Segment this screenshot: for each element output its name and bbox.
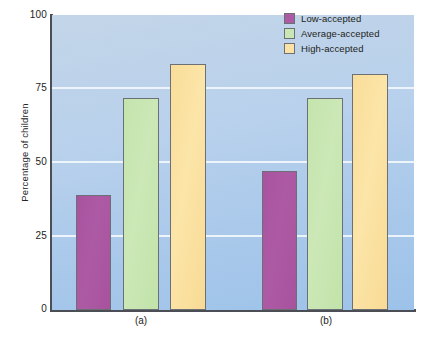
plot-area xyxy=(52,15,414,310)
y-tick-label-25: 25 xyxy=(19,230,47,241)
bar-b-average-accepted xyxy=(307,98,343,310)
legend-item-average-accepted: Average-accepted xyxy=(284,26,380,40)
legend-swatch-low-accepted-icon xyxy=(284,13,295,24)
y-tick-label-75: 75 xyxy=(19,82,47,93)
y-tick-label-0: 0 xyxy=(19,303,47,314)
bar-b-high-accepted xyxy=(352,74,388,310)
x-tick-label-b: (b) xyxy=(306,315,346,326)
y-tick-label-50: 50 xyxy=(19,156,47,167)
y-tick-label-100: 100 xyxy=(19,9,47,20)
legend-item-low-accepted: Low-accepted xyxy=(284,11,380,25)
bar-chart-figure: Percentage of children 100 75 50 25 0 (a… xyxy=(0,0,428,338)
legend-swatch-average-accepted-icon xyxy=(284,28,295,39)
y-axis-tick-labels: 100 75 50 25 0 xyxy=(17,0,47,338)
legend-label-high-accepted: High-accepted xyxy=(301,43,364,54)
legend-label-average-accepted: Average-accepted xyxy=(301,28,380,39)
x-tick-label-a: (a) xyxy=(121,315,161,326)
legend-swatch-high-accepted-icon xyxy=(284,43,295,54)
bar-a-high-accepted xyxy=(170,64,206,310)
chart-legend: Low-accepted Average-accepted High-accep… xyxy=(284,11,380,55)
bar-a-average-accepted xyxy=(123,98,159,310)
bar-a-low-accepted xyxy=(76,195,111,310)
legend-label-low-accepted: Low-accepted xyxy=(301,13,361,24)
bar-b-low-accepted xyxy=(262,171,297,310)
legend-item-high-accepted: High-accepted xyxy=(284,41,380,55)
